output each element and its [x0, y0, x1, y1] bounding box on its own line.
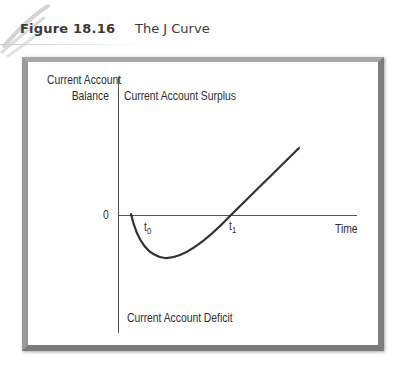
- deficit-region-label: Current Account Deficit: [127, 311, 233, 325]
- j-curve-line: [131, 148, 299, 258]
- t0-marker-label: t0: [144, 220, 151, 236]
- t1-marker-label: t1: [229, 219, 236, 235]
- surplus-region-label: Current Account Surplus: [124, 89, 236, 103]
- y-axis-label-line1: Current Account: [47, 73, 109, 87]
- y-axis-label-line2: Balance: [47, 89, 109, 103]
- zero-tick-label: 0: [103, 208, 109, 222]
- x-axis-label: Time: [335, 222, 358, 236]
